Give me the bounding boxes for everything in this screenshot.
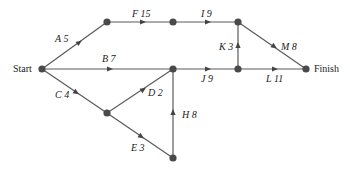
- edge-label-j: J 9: [201, 73, 213, 84]
- arrow-j-icon: [205, 66, 211, 71]
- node-start: [38, 65, 45, 72]
- edge-label-k: K 3: [218, 41, 233, 52]
- arrow-k-icon: [235, 42, 240, 48]
- activity-network-diagram: Start Finish A 5 B 7 C 4 D 2 E 3 F 15 H …: [0, 0, 350, 176]
- edges: [42, 22, 306, 158]
- edge-label-l: L 11: [265, 73, 283, 84]
- arrow-i-icon: [205, 19, 211, 24]
- node-1: [103, 18, 110, 25]
- edge-a: [42, 22, 107, 69]
- edge-label-f: F 15: [131, 8, 151, 19]
- edge-label-c: C 4: [55, 89, 69, 100]
- node-4: [169, 65, 176, 72]
- node-2: [169, 18, 176, 25]
- nodes: [38, 18, 309, 161]
- edge-d: [107, 69, 173, 113]
- edge-label-a: A 5: [54, 33, 68, 44]
- node-finish: [302, 65, 309, 72]
- arrow-b-icon: [107, 66, 113, 71]
- arrow-l-icon: [272, 66, 278, 71]
- node-5: [234, 65, 241, 72]
- edge-label-e: E 3: [130, 142, 145, 153]
- edge-label-m: M 8: [280, 41, 297, 52]
- arrowheads: [73, 19, 279, 140]
- edge-label-b: B 7: [102, 53, 117, 64]
- node-6: [103, 109, 110, 116]
- arrow-f-icon: [140, 19, 146, 24]
- edge-label-h: H 8: [181, 109, 197, 120]
- finish-label: Finish: [314, 63, 339, 74]
- arrow-h-icon: [170, 109, 175, 115]
- edge-label-d: D 2: [147, 87, 163, 98]
- start-label: Start: [13, 63, 32, 74]
- edge-label-i: I 9: [200, 8, 212, 19]
- node-7: [169, 154, 176, 161]
- node-3: [234, 18, 241, 25]
